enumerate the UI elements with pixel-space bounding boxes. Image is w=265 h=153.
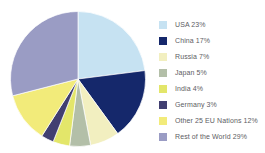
legend-swatch-india	[159, 85, 167, 93]
legend-item-label: Other 25 EU Nations 12%	[175, 117, 258, 125]
legend-item: Other 25 EU Nations 12%	[159, 113, 263, 129]
legend-item-label: Russia 7%	[175, 53, 209, 61]
legend-item: Russia 7%	[159, 49, 263, 65]
pie-chart-figure: USA 23%China 17%Russia 7%Japan 5%India 4…	[0, 0, 265, 153]
legend-swatch-japan	[159, 69, 167, 77]
legend-item-label: Rest of the World 29%	[175, 133, 247, 141]
legend-item: China 17%	[159, 33, 263, 49]
legend-item-label: Germany 3%	[175, 101, 217, 109]
legend-swatch-germany	[159, 101, 167, 109]
legend-item: India 4%	[159, 81, 263, 97]
pie-chart-plot-area: USA 23%China 17%Russia 7%Japan 5%India 4…	[10, 11, 146, 147]
legend-swatch-russia	[159, 53, 167, 61]
legend-item-label: China 17%	[175, 37, 210, 45]
pie-slice-usa: USA 23%	[78, 12, 145, 80]
legend-swatch-usa	[159, 21, 167, 29]
legend-item: Japan 5%	[159, 65, 263, 81]
legend-item: Germany 3%	[159, 97, 263, 113]
legend-item-label: India 4%	[175, 85, 203, 93]
legend-item-label: Japan 5%	[175, 69, 207, 77]
chart-legend: USA 23%China 17%Russia 7%Japan 5%India 4…	[159, 17, 263, 143]
pie-slice-group: USA 23%China 17%Russia 7%Japan 5%India 4…	[11, 12, 146, 147]
legend-item: USA 23%	[159, 17, 263, 33]
legend-swatch-china	[159, 37, 167, 45]
legend-swatch-other-eu	[159, 117, 167, 125]
legend-item: Rest of the World 29%	[159, 129, 263, 145]
legend-swatch-rest-of-world	[159, 133, 167, 141]
pie-chart-svg: USA 23%China 17%Russia 7%Japan 5%India 4…	[10, 11, 146, 147]
legend-item-label: USA 23%	[175, 21, 206, 29]
